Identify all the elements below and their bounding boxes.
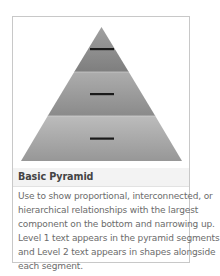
description-line: and Level 2 text appears in shapes along… [18,245,188,259]
basic-pyramid-icon [13,17,189,167]
description-line: each segment. [18,259,188,273]
pyramid-segment-1 [74,27,129,72]
pyramid-segment-3 [21,116,182,161]
description-line: hierarchical relationships with the larg… [18,203,188,217]
text-placeholder-dash [90,138,114,140]
description-line: Level 1 text appears in the pyramid segm… [18,231,188,245]
pyramid-segment-2 [48,72,156,116]
description-line: Use to show proportional, interconnected… [18,189,188,203]
layout-title: Basic Pyramid [18,171,93,182]
description-line: component on the bottom and narrowing up… [18,217,188,231]
layout-description: Use to show proportional, interconnected… [18,189,188,273]
basic-pyramid-preview [13,17,189,167]
text-placeholder-dash [90,93,114,95]
smartart-layout-card[interactable]: Basic Pyramid Use to show proportional, … [12,16,190,263]
text-placeholder-dash [90,48,114,50]
layout-title-bar: Basic Pyramid [13,168,189,187]
